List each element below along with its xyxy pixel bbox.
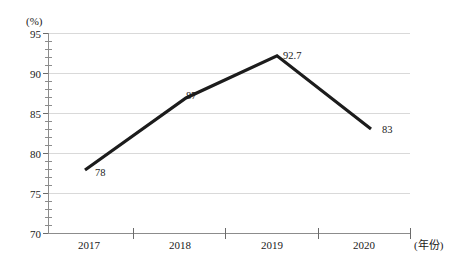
data-label-2020: 83 (382, 124, 393, 135)
y-axis-major-ticks (43, 34, 48, 234)
x-axis-tick-labels: 2017 2018 2019 2020 (78, 239, 376, 251)
x-tick-label-2019: 2019 (261, 239, 284, 251)
data-label-2017: 78 (95, 167, 106, 178)
y-axis-tick-labels: 95 90 85 80 75 70 (30, 28, 42, 240)
x-tick-label-2018: 2018 (169, 239, 192, 251)
x-tick-label-2017: 2017 (78, 239, 101, 251)
data-label-2018: 87 (186, 90, 197, 101)
y-tick-label-70: 70 (30, 228, 42, 240)
y-tick-label-90: 90 (30, 68, 42, 80)
y-axis-unit-label: (%) (26, 15, 43, 28)
x-axis-unit-label: (年份) (414, 238, 444, 252)
x-tick-label-2020: 2020 (353, 239, 376, 251)
y-tick-label-75: 75 (30, 188, 42, 200)
line-chart-figure: 95 90 85 80 75 70 (%) 2017 2018 2019 202… (0, 0, 462, 262)
y-tick-label-85: 85 (30, 108, 42, 120)
data-label-2019: 92.7 (283, 50, 301, 61)
chart-canvas: 95 90 85 80 75 70 (%) 2017 2018 2019 202… (0, 0, 462, 262)
series-line-path (85, 56, 371, 170)
y-tick-label-80: 80 (30, 148, 42, 160)
y-tick-label-95: 95 (30, 28, 42, 40)
